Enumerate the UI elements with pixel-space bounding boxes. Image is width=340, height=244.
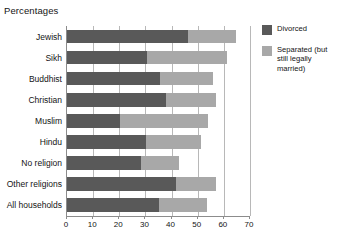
category-label: Hindu	[40, 137, 62, 147]
x-tick-label: 10	[88, 220, 97, 229]
stacked-bar	[67, 72, 213, 86]
bar-segment-divorced	[67, 177, 176, 191]
chart-row: Jewish	[67, 26, 249, 47]
x-tick	[118, 216, 119, 219]
legend-swatch-separated	[262, 46, 272, 56]
bar-segment-divorced	[67, 72, 160, 86]
stacked-bar	[67, 114, 208, 128]
bar-segment-separated	[176, 177, 216, 191]
bar-segment-separated	[147, 51, 227, 65]
category-label: Jewish	[36, 32, 62, 42]
stacked-bar	[67, 177, 216, 191]
bar-segment-separated	[120, 114, 208, 128]
chart-row: Hindu	[67, 132, 249, 153]
category-label: Sikh	[45, 53, 62, 63]
chart-row: Other religions	[67, 174, 249, 195]
stacked-bar	[67, 93, 216, 107]
x-tick-label: 50	[192, 220, 201, 229]
x-tick	[66, 216, 67, 219]
category-label: Christian	[28, 95, 62, 105]
stacked-bar	[67, 135, 201, 149]
chart-title: Percentages	[4, 5, 58, 16]
category-label: Muslim	[35, 116, 62, 126]
stacked-bar	[67, 198, 207, 212]
bar-segment-separated	[141, 156, 179, 170]
x-tick-label: 30	[140, 220, 149, 229]
gridline-70	[250, 26, 251, 216]
chart-row: Christian	[67, 89, 249, 110]
chart-container: Percentages JewishSikhBuddhistChristianM…	[0, 0, 340, 244]
legend-item: Divorced	[262, 24, 338, 35]
bar-segment-divorced	[67, 135, 146, 149]
legend-label: Separated (but still legally married)	[277, 45, 338, 73]
bar-segment-divorced	[67, 114, 120, 128]
x-tick	[249, 216, 250, 219]
bar-segment-divorced	[67, 156, 141, 170]
category-label: Buddhist	[29, 74, 62, 84]
chart-row: Sikh	[67, 47, 249, 68]
x-tick-label: 60	[218, 220, 227, 229]
plot-area: JewishSikhBuddhistChristianMuslimHinduNo…	[66, 26, 249, 216]
legend-swatch-divorced	[262, 25, 272, 35]
bar-segment-separated	[188, 30, 236, 44]
bar-segment-separated	[159, 198, 207, 212]
bar-segment-separated	[166, 93, 217, 107]
bar-segment-divorced	[67, 30, 188, 44]
x-tick	[92, 216, 93, 219]
category-label: No religion	[21, 158, 62, 168]
x-axis-line	[66, 216, 249, 217]
x-tick	[144, 216, 145, 219]
x-tick-label: 20	[114, 220, 123, 229]
category-label: All households	[7, 200, 62, 210]
category-label: Other religions	[7, 179, 62, 189]
legend-item: Separated (but still legally married)	[262, 45, 338, 73]
stacked-bar	[67, 51, 227, 65]
chart-row: Buddhist	[67, 68, 249, 89]
bar-segment-divorced	[67, 51, 147, 65]
x-tick-label: 70	[245, 220, 254, 229]
chart-legend: DivorcedSeparated (but still legally mar…	[262, 24, 338, 83]
bar-segment-divorced	[67, 198, 159, 212]
bar-segment-separated	[160, 72, 213, 86]
stacked-bar	[67, 30, 236, 44]
stacked-bar	[67, 156, 179, 170]
x-tick-label: 0	[64, 220, 68, 229]
chart-row: Muslim	[67, 110, 249, 131]
x-tick	[223, 216, 224, 219]
x-tick	[197, 216, 198, 219]
legend-label: Divorced	[277, 24, 307, 33]
chart-row: All households	[67, 195, 249, 216]
x-tick	[171, 216, 172, 219]
bar-segment-divorced	[67, 93, 166, 107]
x-tick-label: 40	[166, 220, 175, 229]
bar-segment-separated	[146, 135, 201, 149]
chart-row: No religion	[67, 153, 249, 174]
